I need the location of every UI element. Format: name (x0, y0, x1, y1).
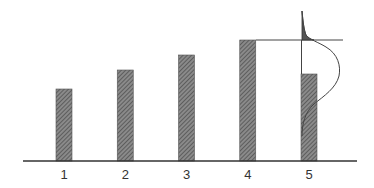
bars-group (56, 40, 317, 161)
x-tick-label: 2 (122, 167, 129, 182)
bar-1 (56, 89, 72, 161)
x-tick-label: 1 (60, 167, 67, 182)
x-tick-label: 5 (305, 167, 312, 182)
bar-5 (301, 74, 317, 161)
bar-chart: 12345 (0, 0, 374, 188)
x-tick-label: 3 (183, 167, 190, 182)
bar-3 (179, 55, 195, 161)
x-tick-labels: 12345 (60, 167, 312, 182)
bar-4 (240, 40, 256, 161)
x-tick-label: 4 (244, 167, 251, 182)
bar-2 (117, 70, 133, 161)
